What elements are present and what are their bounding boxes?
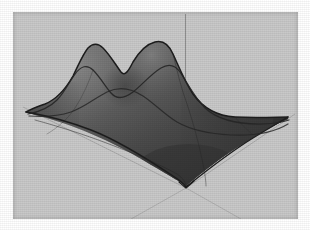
figure-root [0,0,310,230]
ground-axis-right-extension [186,188,241,219]
surface-plot-canvas [13,12,298,219]
surface-plot-area [13,12,298,219]
saddle-shadow [101,64,149,108]
surface-body [21,34,298,216]
ground-axis-left-extension [131,188,186,219]
